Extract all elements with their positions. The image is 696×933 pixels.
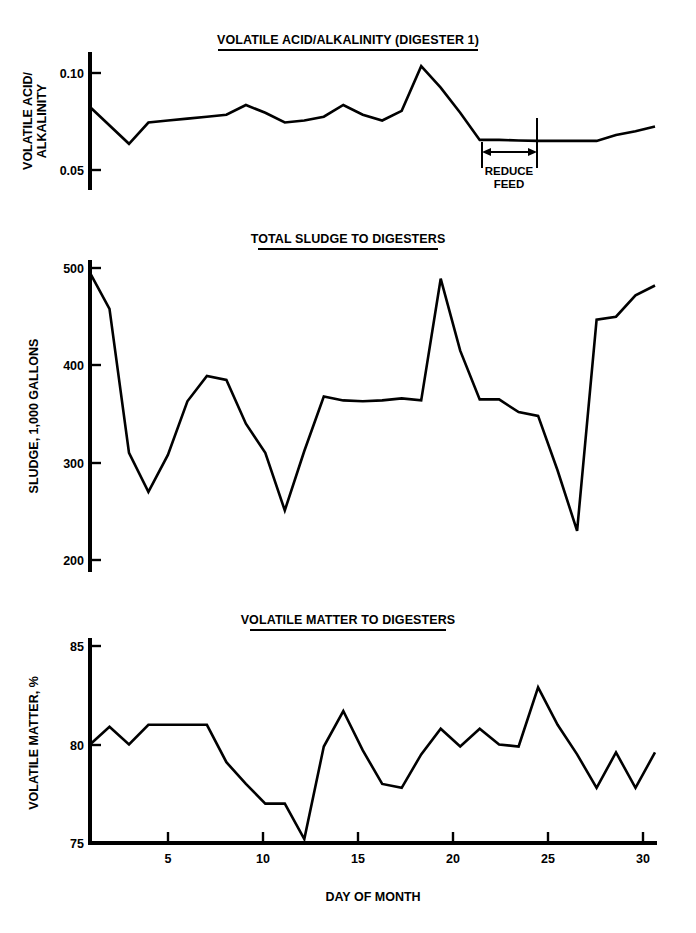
- chart3-ytick-label-0: 85: [70, 640, 84, 654]
- chart3-y-axis-title: VOLATILE MATTER, %: [27, 676, 41, 810]
- chart2-ytick-label-3: 200: [63, 554, 84, 568]
- charts-svg: VOLATILE ACID/ALKALINITY (DIGESTER 1) 0.…: [0, 0, 696, 933]
- chart3-xtick-label-1: 10: [256, 852, 270, 866]
- chart3-xtick-label-3: 20: [446, 852, 460, 866]
- reduce-feed-label-line1: REDUCE: [485, 165, 534, 177]
- reduce-feed-label-line2: FEED: [494, 178, 525, 190]
- figure-root: VOLATILE ACID/ALKALINITY (DIGESTER 1) 0.…: [0, 0, 696, 933]
- chart-volatile-acid-alkalinity: VOLATILE ACID/ALKALINITY (DIGESTER 1) 0.…: [21, 33, 655, 190]
- chart2-y-axis-title: SLUDGE, 1,000 GALLONS: [27, 339, 41, 494]
- chart2-ytick-label-2: 300: [63, 457, 84, 471]
- chart3-ytick-label-1: 80: [70, 739, 84, 753]
- chart3-title: VOLATILE MATTER TO DIGESTERS: [241, 613, 456, 627]
- reduce-feed-left-arrowhead: [482, 148, 491, 156]
- chart1-y-axis-title-line2: ALKALINITY: [35, 83, 49, 158]
- chart1-y-axis-title-line1: VOLATILE ACID/: [21, 72, 35, 170]
- chart3-xtick-label-2: 15: [351, 852, 365, 866]
- chart1-title: VOLATILE ACID/ALKALINITY (DIGESTER 1): [217, 33, 479, 47]
- x-axis-title: DAY OF MONTH: [325, 890, 420, 904]
- chart3-xtick-label-4: 25: [541, 852, 555, 866]
- chart3-data-line: [90, 687, 655, 839]
- reduce-feed-right-arrowhead: [528, 148, 537, 156]
- chart-volatile-matter-to-digesters: VOLATILE MATTER TO DIGESTERS 85 80 75 VO…: [27, 613, 657, 904]
- chart3-xtick-label-5: 30: [636, 852, 650, 866]
- chart1-ytick-label-1: 0.05: [60, 164, 84, 178]
- chart1-data-line: [90, 66, 655, 144]
- chart-total-sludge-to-digesters: TOTAL SLUDGE TO DIGESTERS 500 400 300 20…: [27, 232, 655, 572]
- chart3-xtick-label-0: 5: [165, 852, 172, 866]
- chart3-ytick-label-2: 75: [70, 837, 84, 851]
- chart2-data-line: [90, 273, 655, 531]
- chart2-title: TOTAL SLUDGE TO DIGESTERS: [251, 232, 446, 246]
- chart2-ytick-label-1: 400: [63, 359, 84, 373]
- chart2-ytick-label-0: 500: [63, 262, 84, 276]
- chart1-ytick-label-0: 0.10: [60, 67, 84, 81]
- chart1-reduce-feed-annotation: REDUCE FEED: [482, 118, 537, 190]
- chart1-y-axis-title: VOLATILE ACID/ ALKALINITY: [21, 72, 49, 170]
